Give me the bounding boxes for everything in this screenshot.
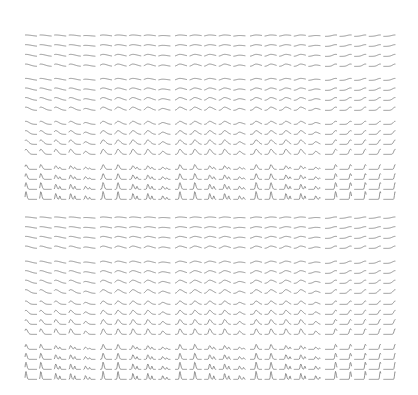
sparkline bbox=[294, 166, 306, 170]
sparkline bbox=[250, 320, 262, 325]
sparkline bbox=[69, 346, 81, 350]
sparkline bbox=[129, 320, 141, 325]
sparkline bbox=[369, 192, 381, 200]
sparkline bbox=[204, 131, 216, 135]
sparkline bbox=[54, 64, 66, 66]
sparkline bbox=[175, 236, 187, 238]
sparkline bbox=[115, 107, 127, 110]
sparkline bbox=[144, 54, 156, 56]
sparkline bbox=[354, 320, 366, 325]
sparkline bbox=[294, 184, 306, 189]
sparkline bbox=[308, 272, 320, 274]
sparkline bbox=[325, 174, 337, 180]
sparkline bbox=[354, 64, 366, 66]
sparkline bbox=[83, 312, 95, 314]
sparkline bbox=[279, 246, 291, 248]
sparkline bbox=[354, 301, 366, 304]
sparkline bbox=[265, 64, 277, 66]
sparkline bbox=[383, 353, 395, 359]
sparkline bbox=[144, 107, 156, 110]
sparkline bbox=[100, 261, 112, 263]
sparkline bbox=[190, 149, 202, 154]
sparkline bbox=[115, 236, 127, 238]
sparkline bbox=[175, 320, 187, 325]
sparkline bbox=[308, 227, 320, 228]
sparkline bbox=[354, 78, 366, 80]
sparkline bbox=[294, 280, 306, 283]
sparkline bbox=[100, 88, 112, 90]
sparkline bbox=[308, 281, 320, 283]
sparkline bbox=[325, 121, 337, 124]
sparkline bbox=[340, 165, 352, 170]
sparkline bbox=[83, 132, 95, 134]
sparkline bbox=[354, 310, 366, 314]
sparkline bbox=[144, 98, 156, 100]
sparkline bbox=[279, 280, 291, 283]
sparkline bbox=[54, 310, 66, 314]
sparkline bbox=[340, 35, 352, 36]
sparkline bbox=[129, 64, 141, 66]
sparkline bbox=[340, 140, 352, 144]
sparkline bbox=[279, 98, 291, 101]
sparkline bbox=[83, 302, 95, 304]
sparkline bbox=[204, 121, 216, 124]
sparkline bbox=[369, 236, 381, 238]
sparkline bbox=[83, 186, 95, 189]
sparkline bbox=[294, 98, 306, 101]
sparkline bbox=[279, 166, 291, 170]
sparkline bbox=[40, 372, 52, 380]
sparkline bbox=[250, 261, 262, 263]
sparkline bbox=[340, 54, 352, 56]
sparkline bbox=[233, 366, 245, 369]
sparkline bbox=[233, 347, 245, 349]
sparkline bbox=[40, 344, 52, 349]
sparkline bbox=[340, 217, 352, 218]
sparkline bbox=[175, 217, 187, 218]
sparkline bbox=[233, 312, 245, 314]
sparkline bbox=[190, 372, 202, 380]
sparkline bbox=[144, 236, 156, 238]
sparkline bbox=[54, 346, 66, 350]
sparkline bbox=[204, 184, 216, 189]
sparkline bbox=[175, 353, 187, 359]
sparkline bbox=[40, 88, 52, 90]
sparkline bbox=[354, 344, 366, 349]
sparkline bbox=[69, 310, 81, 314]
sparkline bbox=[354, 107, 366, 110]
sparkline bbox=[129, 54, 141, 56]
sparkline bbox=[25, 329, 37, 335]
sparkline bbox=[204, 166, 216, 170]
sparkline bbox=[144, 301, 156, 304]
sparkline bbox=[369, 78, 381, 80]
sparkline bbox=[340, 88, 352, 90]
sparkline bbox=[308, 291, 320, 293]
sparkline bbox=[250, 271, 262, 274]
sparkline bbox=[83, 151, 95, 154]
sparkline bbox=[40, 246, 52, 248]
sparkline bbox=[233, 89, 245, 90]
sparkline bbox=[69, 320, 81, 325]
sparkline bbox=[144, 88, 156, 90]
sparkline bbox=[54, 364, 66, 369]
sparkline bbox=[69, 194, 81, 200]
sparkline bbox=[308, 312, 320, 314]
sparkline bbox=[54, 45, 66, 46]
sparkline bbox=[265, 372, 277, 380]
sparkline bbox=[40, 217, 52, 218]
sparkline bbox=[279, 121, 291, 124]
sparkline bbox=[190, 280, 202, 283]
sparkline bbox=[294, 121, 306, 124]
sparkline bbox=[369, 261, 381, 263]
sparkline bbox=[158, 331, 170, 334]
sparkline bbox=[83, 237, 95, 238]
sparkline bbox=[83, 218, 95, 219]
sparkline bbox=[250, 88, 262, 90]
sparkline bbox=[340, 271, 352, 274]
sparkline bbox=[190, 88, 202, 90]
sparkline bbox=[325, 88, 337, 90]
sparkline bbox=[294, 140, 306, 144]
sparkline bbox=[265, 107, 277, 110]
sparkline bbox=[144, 320, 156, 325]
sparkline bbox=[175, 183, 187, 190]
sparkline bbox=[233, 321, 245, 324]
